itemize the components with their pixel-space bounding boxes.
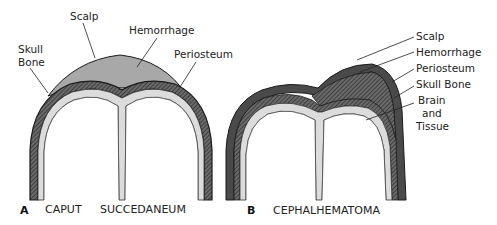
leader-periosteum-a [180,62,196,87]
panel-a-caput-succedaneum: Scalp Hemorrhage Periosteum Skull Bone A… [18,10,233,217]
brain-left-b [246,111,316,200]
label-hemorrhage-a: Hemorrhage [129,24,195,36]
leader-scalp-a [83,23,95,58]
leader-skull-a [30,68,48,93]
label-periosteum-a: Periosteum [174,48,233,60]
brain-right-b [322,114,386,200]
panel-b-cephalhematoma: Scalp Hemorrhage Periosteum Skull Bone B… [226,30,482,217]
label-brain-line1-b: Brain [418,94,446,106]
label-scalp-a: Scalp [70,10,99,22]
leader-hemorrhage-b [360,52,414,72]
label-brain-line2-b: and [422,107,442,119]
label-skull-b: Skull Bone [416,78,471,90]
label-skull-line2-a: Bone [18,56,45,68]
label-hemorrhage-b: Hemorrhage [416,46,482,58]
leader-periosteum-b [392,69,414,82]
label-brain-line3-b: Tissue [415,120,449,132]
panel-letter-a: A [20,204,29,217]
leader-scalp-b [357,37,414,60]
label-periosteum-b: Periosteum [416,62,475,74]
panel-title-b: CEPHALHEMATOMA [273,204,380,217]
panel-title-a-word1: CAPUT [45,203,82,216]
label-skull-line1-a: Skull [18,43,43,55]
diagram-canvas: Scalp Hemorrhage Periosteum Skull Bone A… [0,0,497,225]
label-scalp-b: Scalp [416,30,445,42]
panel-letter-b: B [247,204,255,217]
panel-title-a-word2: SUCCEDANEUM [100,203,186,216]
